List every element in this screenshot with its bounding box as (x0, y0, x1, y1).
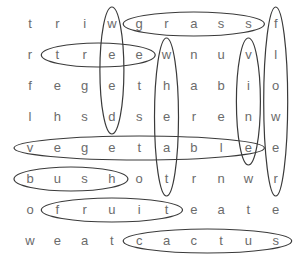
found-word-loop-tree (41, 43, 155, 67)
found-word-loop-weed (100, 7, 124, 134)
found-word-loop-bush (14, 167, 128, 191)
found-word-loop-fruit (41, 198, 182, 222)
found-word-loop-cactus (123, 229, 292, 253)
found-word-loop-wheat (155, 38, 179, 196)
found-word-loops (0, 0, 299, 260)
found-word-loop-vegetable (14, 136, 264, 160)
found-word-loop-vine (236, 38, 260, 165)
found-word-loop-grass (123, 12, 264, 36)
found-word-loop-flower (264, 7, 288, 196)
